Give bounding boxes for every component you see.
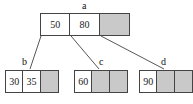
node-a-cell-1[interactable]: 80 xyxy=(70,14,99,35)
node-label-a: a xyxy=(82,1,86,11)
node-a-cell-2[interactable] xyxy=(100,14,129,35)
node-b-cell-2[interactable] xyxy=(41,71,58,92)
node-label-b: b xyxy=(22,57,27,67)
node-b-cell-1[interactable]: 35 xyxy=(23,71,40,92)
node-c[interactable]: 60 xyxy=(74,70,128,93)
edge-root-to-d xyxy=(101,36,164,69)
node-label-c: c xyxy=(99,57,103,67)
node-d-cell-2[interactable] xyxy=(175,71,192,92)
node-c-cell-0[interactable]: 60 xyxy=(75,71,92,92)
node-b-cell-0[interactable]: 30 xyxy=(6,71,23,92)
node-d[interactable]: 90 xyxy=(139,70,193,93)
edge-root-to-b xyxy=(30,36,41,69)
node-label-d: d xyxy=(161,57,166,67)
node-d-cell-0[interactable]: 90 xyxy=(140,71,157,92)
node-b[interactable]: 30 35 xyxy=(5,70,59,93)
node-d-cell-1[interactable] xyxy=(157,71,174,92)
diagram-canvas: a 50 80 b 30 35 c 60 d 90 xyxy=(0,0,193,104)
node-c-cell-1[interactable] xyxy=(92,71,109,92)
node-c-cell-2[interactable] xyxy=(110,71,127,92)
edge-root-to-c xyxy=(71,36,99,69)
node-a-cell-0[interactable]: 50 xyxy=(41,14,70,35)
node-a[interactable]: 50 80 xyxy=(40,13,130,36)
